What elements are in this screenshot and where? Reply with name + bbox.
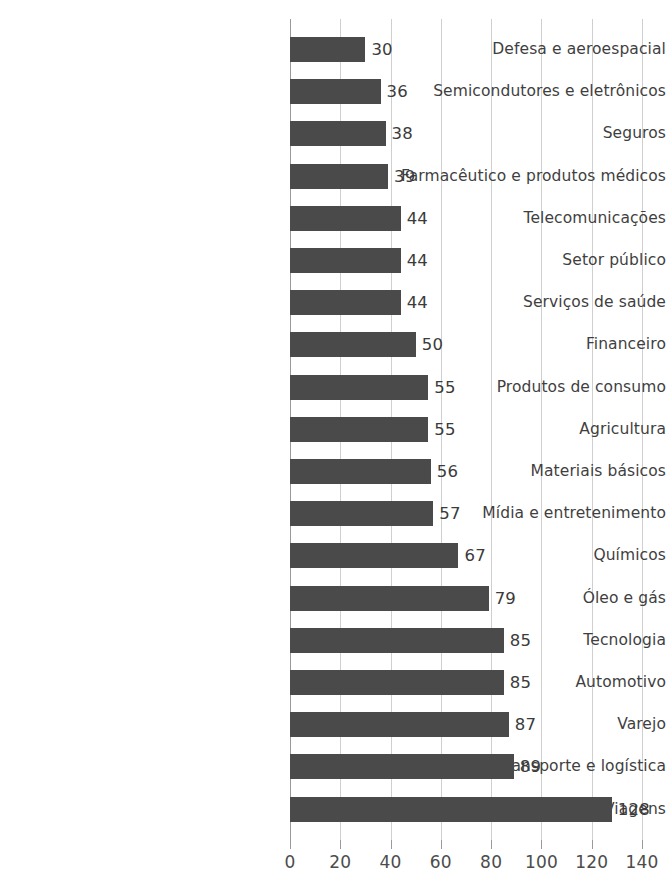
value-label: 67 xyxy=(464,545,485,566)
bar xyxy=(290,712,509,737)
value-label: 87 xyxy=(515,714,536,735)
bar-row: Farmacêutico e produtos médicos39 xyxy=(0,164,666,189)
bar-row: Financeiro50 xyxy=(0,332,666,357)
value-label: 50 xyxy=(422,334,443,355)
bar xyxy=(290,459,431,484)
bar xyxy=(290,417,428,442)
bar-row: Setor público44 xyxy=(0,248,666,273)
value-label: 44 xyxy=(407,208,428,229)
value-label: 44 xyxy=(407,250,428,271)
x-tick-label: 80 xyxy=(480,852,502,872)
x-tick-label: 140 xyxy=(625,852,658,872)
bar xyxy=(290,248,401,273)
bar-row: Materiais básicos56 xyxy=(0,459,666,484)
bar xyxy=(290,121,386,146)
category-label: Defesa e aeroespacial xyxy=(382,39,666,60)
tick-mark-60 xyxy=(441,840,442,849)
tick-mark-80 xyxy=(491,840,492,849)
bar xyxy=(290,501,433,526)
bar-chart: Defesa e aeroespacial30Semicondutores e … xyxy=(0,0,666,888)
bar-row: Semicondutores e eletrônicos36 xyxy=(0,79,666,104)
value-label: 56 xyxy=(437,461,458,482)
value-label: 44 xyxy=(407,292,428,313)
value-label: 55 xyxy=(434,377,455,398)
value-label: 55 xyxy=(434,419,455,440)
value-label: 128 xyxy=(618,799,650,820)
bar xyxy=(290,375,428,400)
x-tick-label: 60 xyxy=(430,852,452,872)
bar xyxy=(290,332,416,357)
bar-row: Seguros38 xyxy=(0,121,666,146)
bar-row: Varejo87 xyxy=(0,712,666,737)
tick-mark-100 xyxy=(541,840,542,849)
bar xyxy=(290,754,514,779)
x-tick-label: 0 xyxy=(284,852,295,872)
x-tick-label: 120 xyxy=(575,852,608,872)
bar-row: Telecomunicações44 xyxy=(0,206,666,231)
bar xyxy=(290,79,381,104)
value-label: 85 xyxy=(510,630,531,651)
value-label: 30 xyxy=(371,39,392,60)
bar xyxy=(290,797,612,822)
bar xyxy=(290,37,365,62)
x-tick-label: 40 xyxy=(380,852,402,872)
bar-row: Químicos67 xyxy=(0,543,666,568)
value-label: 38 xyxy=(392,123,413,144)
value-label: 89 xyxy=(520,756,541,777)
bar-row: Agricultura55 xyxy=(0,417,666,442)
category-label: Farmacêutico e produtos médicos xyxy=(382,166,666,187)
value-label: 85 xyxy=(510,672,531,693)
value-label: 36 xyxy=(387,81,408,102)
value-label: 39 xyxy=(394,166,415,187)
x-tick-label: 100 xyxy=(525,852,558,872)
bar-row: Defesa e aeroespacial30 xyxy=(0,37,666,62)
bar xyxy=(290,543,458,568)
tick-mark-40 xyxy=(391,840,392,849)
bar xyxy=(290,206,401,231)
x-tick-label: 20 xyxy=(329,852,351,872)
bar xyxy=(290,586,489,611)
bar xyxy=(290,164,388,189)
category-label: Seguros xyxy=(382,123,666,144)
value-label: 79 xyxy=(495,588,516,609)
value-label: 57 xyxy=(439,503,460,524)
bar xyxy=(290,628,504,653)
bar xyxy=(290,290,401,315)
bar xyxy=(290,670,504,695)
bar-row: Viagens128 xyxy=(0,797,666,822)
category-label: Semicondutores e eletrônicos xyxy=(382,81,666,102)
bar-row: Transporte e logística89 xyxy=(0,754,666,779)
bar-row: Tecnologia85 xyxy=(0,628,666,653)
bar-row: Produtos de consumo55 xyxy=(0,375,666,400)
tick-mark-0 xyxy=(290,840,291,849)
bar-row: Mídia e entretenimento57 xyxy=(0,501,666,526)
bar-row: Óleo e gás79 xyxy=(0,586,666,611)
tick-mark-140 xyxy=(642,840,643,849)
bar-row: Automotivo85 xyxy=(0,670,666,695)
tick-mark-20 xyxy=(340,840,341,849)
bar-row: Serviços de saúde44 xyxy=(0,290,666,315)
tick-mark-120 xyxy=(592,840,593,849)
